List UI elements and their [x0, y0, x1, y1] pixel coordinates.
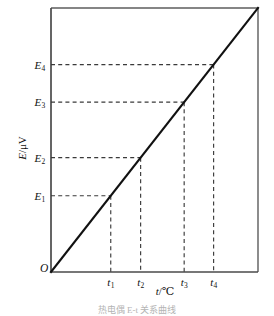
- y-axis-title-symbol: E: [16, 153, 28, 160]
- data-line-E-vs-t: [51, 8, 258, 272]
- x-tick-label-4: t4: [210, 277, 217, 288]
- y-axis-title-unit: /μV: [16, 136, 28, 153]
- x-tick-label-1: t1: [107, 277, 114, 288]
- x-tick-label-3: t3: [181, 277, 188, 288]
- y-tick-label-2: E2: [35, 152, 45, 163]
- y-tick-label-3: E3: [35, 97, 45, 108]
- y-tick-label-4: E4: [35, 59, 45, 70]
- y-axis-title: E/μV: [16, 136, 28, 160]
- origin-label: O: [40, 263, 48, 275]
- x-axis-title: t/℃: [156, 286, 174, 297]
- x-tick-label-2: t2: [137, 277, 144, 288]
- figure-caption: 热电偶 E-t 关系曲线: [0, 303, 274, 316]
- x-axis-title-unit: /℃: [159, 285, 174, 297]
- y-tick-label-1: E1: [35, 190, 45, 201]
